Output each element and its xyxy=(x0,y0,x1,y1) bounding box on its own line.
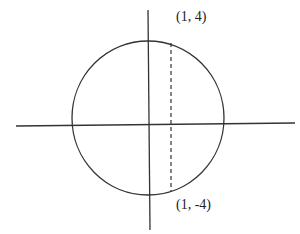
x-axis xyxy=(16,123,295,126)
label-bottom-point: (1, -4) xyxy=(176,197,211,213)
diagram-canvas: (1, 4) (1, -4) xyxy=(0,0,300,234)
label-top-point: (1, 4) xyxy=(176,9,207,25)
y-axis xyxy=(148,10,150,230)
